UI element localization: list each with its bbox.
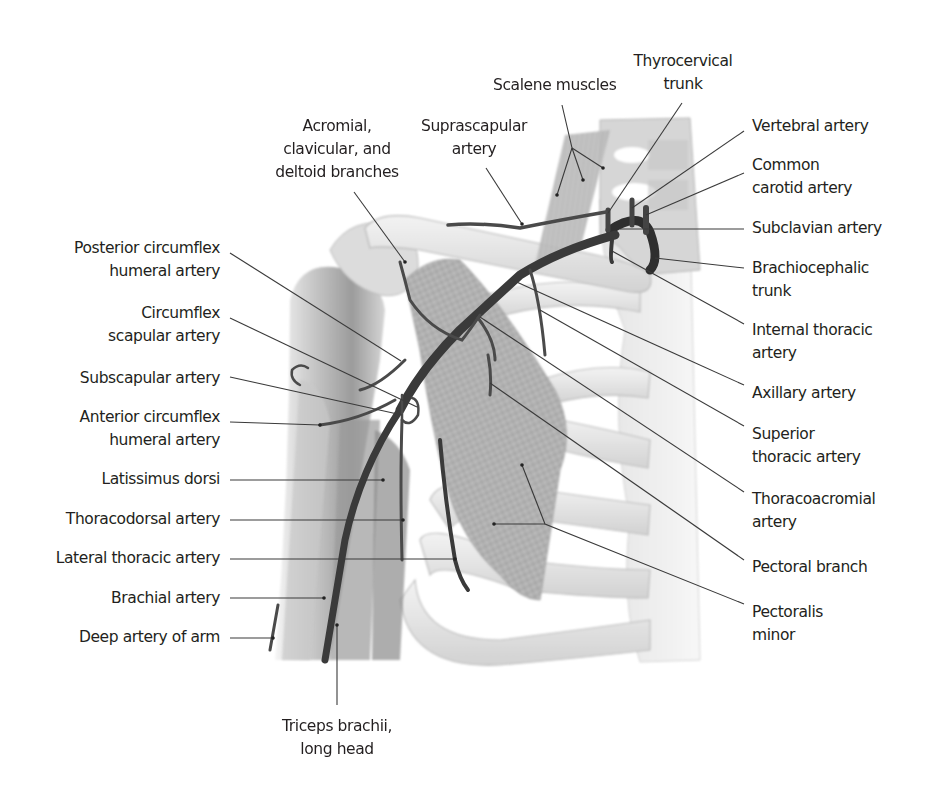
label-line: Anterior circumflex xyxy=(80,406,220,429)
label-line: Internal thoracic xyxy=(752,319,872,342)
label-thoracodorsal-artery: Thoracodorsal artery xyxy=(66,508,220,531)
label-line: humeral artery xyxy=(80,429,220,452)
label-brachial-artery: Brachial artery xyxy=(111,587,220,610)
label-circumflex-scapular-artery: Circumflex scapular artery xyxy=(108,302,220,348)
label-line: artery xyxy=(421,138,527,161)
label-suprascapular-artery: Suprascapular artery xyxy=(421,115,527,161)
label-line: Posterior circumflex xyxy=(74,237,220,260)
label-line: Subclavian artery xyxy=(752,217,882,240)
label-line: Latissimus dorsi xyxy=(101,468,220,491)
label-line: Scalene muscles xyxy=(493,74,616,97)
label-internal-thoracic-artery: Internal thoracic artery xyxy=(752,319,872,365)
label-line: Thyrocervical xyxy=(633,50,732,73)
label-line: Acromial, xyxy=(275,115,398,138)
label-line: Brachiocephalic xyxy=(752,257,869,280)
label-pectoralis-minor: Pectoralis minor xyxy=(752,601,823,647)
label-line: Axillary artery xyxy=(752,382,856,405)
label-line: clavicular, and xyxy=(275,138,398,161)
label-line: Pectoralis xyxy=(752,601,823,624)
leader-suprascapular-artery xyxy=(486,168,522,224)
label-vertebral-artery: Vertebral artery xyxy=(752,115,869,138)
label-brachiocephalic-trunk: Brachiocephalic trunk xyxy=(752,257,869,303)
label-line: Subscapular artery xyxy=(80,367,220,390)
label-line: Suprascapular xyxy=(421,115,527,138)
label-line: Circumflex xyxy=(108,302,220,325)
label-lateral-thoracic-artery: Lateral thoracic artery xyxy=(56,547,220,570)
label-acromial-clavicular-deltoid-branches: Acromial, clavicular, and deltoid branch… xyxy=(275,115,398,184)
label-deep-artery-of-arm: Deep artery of arm xyxy=(79,626,220,649)
label-line: Pectoral branch xyxy=(752,556,867,579)
label-latissimus-dorsi: Latissimus dorsi xyxy=(101,468,220,491)
label-line: trunk xyxy=(752,280,869,303)
label-line: deltoid branches xyxy=(275,161,398,184)
label-line: long head xyxy=(282,738,392,761)
label-anterior-circumflex-humeral-artery: Anterior circumflex humeral artery xyxy=(80,406,220,452)
label-line: Thoracodorsal artery xyxy=(66,508,220,531)
label-line: thoracic artery xyxy=(752,446,861,469)
label-line: Superior xyxy=(752,423,861,446)
label-line: Brachial artery xyxy=(111,587,220,610)
label-line: artery xyxy=(752,511,875,534)
label-line: Deep artery of arm xyxy=(79,626,220,649)
label-line: carotid artery xyxy=(752,177,852,200)
label-common-carotid-artery: Common carotid artery xyxy=(752,154,852,200)
label-line: Thoracoacromial xyxy=(752,488,875,511)
label-line: Triceps brachii, xyxy=(282,715,392,738)
label-line: Common xyxy=(752,154,852,177)
label-subscapular-artery: Subscapular artery xyxy=(80,367,220,390)
label-line: minor xyxy=(752,624,823,647)
label-scalene-muscles: Scalene muscles xyxy=(493,74,616,97)
label-line: trunk xyxy=(633,73,732,96)
label-line: scapular artery xyxy=(108,325,220,348)
label-triceps-brachii-long-head: Triceps brachii, long head xyxy=(282,715,392,761)
label-thyrocervical-trunk: Thyrocervical trunk xyxy=(633,50,732,96)
label-line: Vertebral artery xyxy=(752,115,869,138)
label-line: humeral artery xyxy=(74,260,220,283)
label-axillary-artery: Axillary artery xyxy=(752,382,856,405)
label-posterior-circumflex-humeral-artery: Posterior circumflex humeral artery xyxy=(74,237,220,283)
label-thoracoacromial-artery: Thoracoacromial artery xyxy=(752,488,875,534)
label-pectoral-branch: Pectoral branch xyxy=(752,556,867,579)
label-line: Lateral thoracic artery xyxy=(56,547,220,570)
label-subclavian-artery: Subclavian artery xyxy=(752,217,882,240)
label-line: artery xyxy=(752,342,872,365)
label-superior-thoracic-artery: Superior thoracic artery xyxy=(752,423,861,469)
